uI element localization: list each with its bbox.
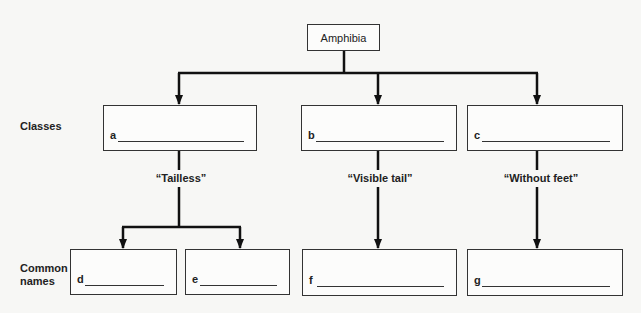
answer-line[interactable] xyxy=(316,141,444,143)
answer-line[interactable] xyxy=(85,285,164,287)
root-node-amphibia: Amphibia xyxy=(307,24,380,51)
branch-label-visible-tail: “Visible tail” xyxy=(347,172,412,184)
blank-letter: e xyxy=(192,273,198,285)
branch-label-without-feet: “Without feet” xyxy=(504,172,578,184)
blank-letter: b xyxy=(308,129,315,141)
blank-letter: g xyxy=(474,274,481,286)
class-box-a[interactable]: a xyxy=(103,105,257,151)
answer-line[interactable] xyxy=(317,286,444,288)
common-name-box-g[interactable]: g xyxy=(467,249,623,296)
blank-letter: f xyxy=(309,274,313,286)
blank-letter: a xyxy=(110,129,116,141)
row-label-classes: Classes xyxy=(20,120,62,133)
blank-letter: c xyxy=(474,129,480,141)
row-label-common-names: Common names xyxy=(20,262,70,288)
branch-label-tailless: “Tailless” xyxy=(156,172,207,184)
root-label: Amphibia xyxy=(321,32,367,44)
answer-line[interactable] xyxy=(200,285,277,287)
answer-line[interactable] xyxy=(118,141,244,143)
common-name-box-f[interactable]: f xyxy=(302,249,457,296)
class-box-b[interactable]: b xyxy=(301,105,457,151)
class-box-c[interactable]: c xyxy=(467,105,623,151)
answer-line[interactable] xyxy=(482,286,610,288)
common-name-box-d[interactable]: d xyxy=(70,249,177,295)
common-name-box-e[interactable]: e xyxy=(185,249,290,295)
blank-letter: d xyxy=(77,273,84,285)
answer-line[interactable] xyxy=(482,141,610,143)
